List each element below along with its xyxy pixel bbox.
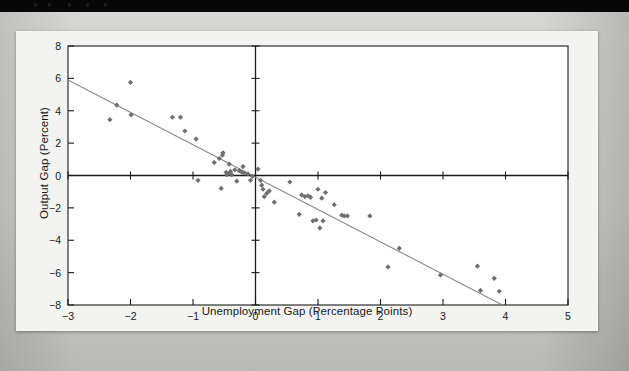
title-strip [0, 0, 629, 12]
y-tick-label: −6 [49, 267, 61, 279]
strip-speck [68, 3, 71, 7]
y-tick-label: 8 [55, 40, 61, 52]
figure-screenshot: −3−2−1012345−8−6−4−202468 Output Gap (Pe… [0, 0, 629, 371]
strip-speck [104, 3, 107, 7]
y-tick-label: −4 [49, 234, 61, 246]
plot-canvas: −3−2−1012345−8−6−4−202468 [16, 31, 598, 331]
y-tick-label: −2 [49, 202, 61, 214]
y-tick-label: 6 [55, 72, 61, 84]
figure-card: −3−2−1012345−8−6−4−202468 Output Gap (Pe… [16, 31, 598, 331]
strip-speck [48, 3, 51, 7]
scatter-plot: −3−2−1012345−8−6−4−202468 Output Gap (Pe… [16, 31, 598, 331]
x-axis-title: Unemployment Gap (Percentage Points) [16, 305, 598, 317]
y-axis-title: Output Gap (Percent) [38, 43, 50, 283]
y-tick-label: 0 [55, 170, 61, 182]
y-tick-label: 4 [55, 105, 61, 117]
y-tick-label: 2 [55, 137, 61, 149]
strip-speck [86, 3, 89, 7]
strip-speck [34, 3, 37, 7]
